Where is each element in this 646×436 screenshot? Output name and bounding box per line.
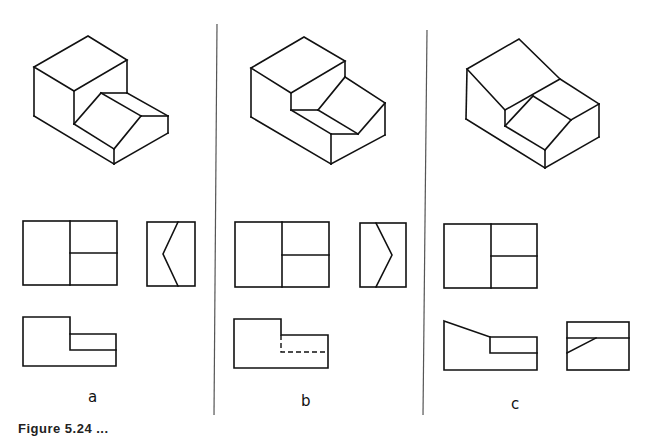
isometric-view-a [34,36,168,164]
top-view-a [23,221,117,285]
divider-right [423,30,427,415]
panel-a: a [23,36,195,406]
panel-label-c: c [511,395,519,413]
top-view-b [235,222,329,287]
top-view-c [444,224,537,288]
side-view-c [567,322,629,370]
panel-label-a: a [88,388,97,406]
isometric-view-b [251,37,385,164]
panel-c: c [444,39,629,413]
side-view-b [360,223,406,287]
panel-b: b [234,37,406,410]
front-view-c [444,321,537,370]
figure-caption: Figure 5.24 ... [18,421,109,436]
front-view-b [234,319,328,368]
divider-left [214,24,217,415]
hidden-line [281,335,328,352]
isometric-view-c [466,39,599,168]
front-view-a [23,317,116,366]
side-view-a [147,222,195,286]
panel-label-b: b [301,392,311,410]
